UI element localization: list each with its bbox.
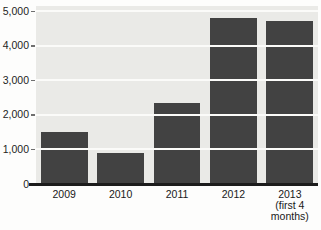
x-category-label: 2010 <box>92 189 148 222</box>
bar-chart-figure: 01,0002,0003,0004,0005,000 2009201020112… <box>0 0 321 230</box>
x-category-label-line: 2009 <box>36 189 92 200</box>
y-tick-mark <box>31 149 35 151</box>
x-axis-labels: 20092010201120122013(first 4months) <box>36 189 318 222</box>
bar-slot-2009 <box>36 6 92 184</box>
gridline <box>36 148 318 150</box>
y-tick-label: 2,000 <box>0 108 29 121</box>
y-tick-label: 3,000 <box>0 74 29 87</box>
bar-slot-2010 <box>92 6 148 184</box>
x-category-label: 2012 <box>205 189 261 222</box>
bar-slot-2012 <box>205 6 261 184</box>
y-tick-mark <box>31 11 35 13</box>
plot-area <box>36 6 318 184</box>
y-tick-mark <box>31 114 35 116</box>
y-tick-mark <box>31 45 35 47</box>
y-tick-mark <box>31 80 35 82</box>
x-category-label-line: months) <box>262 211 318 222</box>
y-tick-label: 4,000 <box>0 39 29 52</box>
x-category-label-line: 2011 <box>149 189 205 200</box>
x-category-label: 2013(first 4months) <box>262 189 318 222</box>
y-tick-label: 1,000 <box>0 143 29 156</box>
gridline <box>36 10 318 12</box>
bar-slot-2013 <box>262 6 318 184</box>
y-tick-label: 0 <box>0 178 29 191</box>
x-category-label-line: 2010 <box>92 189 148 200</box>
bar-slot-2011 <box>149 6 205 184</box>
gridline <box>36 79 318 81</box>
x-category-label-line: 2012 <box>205 189 261 200</box>
bars-container <box>36 6 318 184</box>
gridline <box>36 45 318 47</box>
y-tick-label: 5,000 <box>0 5 29 18</box>
bar-2009 <box>41 132 88 184</box>
x-category-label: 2011 <box>149 189 205 222</box>
gridline <box>36 114 318 116</box>
x-axis-line <box>29 183 318 186</box>
bar-2012 <box>210 18 257 184</box>
x-category-label: 2009 <box>36 189 92 222</box>
bar-2010 <box>97 153 144 184</box>
